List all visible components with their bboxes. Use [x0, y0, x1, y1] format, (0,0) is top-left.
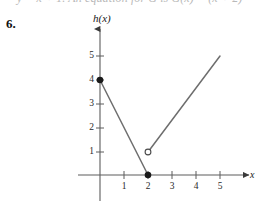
graph-figure: h(x) x 1 2 3 4 5 1 2 3 4 5: [0, 0, 259, 205]
function-label: h(x): [93, 12, 111, 24]
x-tick-label-4: 4: [189, 181, 203, 191]
closed-point-2-0: [145, 172, 152, 179]
y-tick-label-2: 2: [82, 122, 94, 132]
graph-segment-ascending: [148, 56, 220, 152]
y-tick-label-1: 1: [82, 146, 94, 156]
page-root: y = x + 1. An equation for G is G(x) = (…: [0, 0, 259, 205]
x-tick-label-1: 1: [117, 181, 131, 191]
graph-segment-descending: [100, 80, 148, 175]
x-tick-label-3: 3: [165, 181, 179, 191]
y-tick-label-5: 5: [82, 50, 94, 60]
y-tick-label-3: 3: [82, 98, 94, 108]
x-tick-label-2: 2: [141, 181, 155, 191]
coordinate-plane-svg: [0, 0, 259, 205]
y-tick-label-4: 4: [82, 74, 94, 84]
closed-point-0-4: [97, 77, 104, 84]
x-axis-label: x: [250, 169, 254, 180]
open-point-2-1: [145, 149, 151, 155]
x-tick-label-5: 5: [213, 181, 227, 191]
